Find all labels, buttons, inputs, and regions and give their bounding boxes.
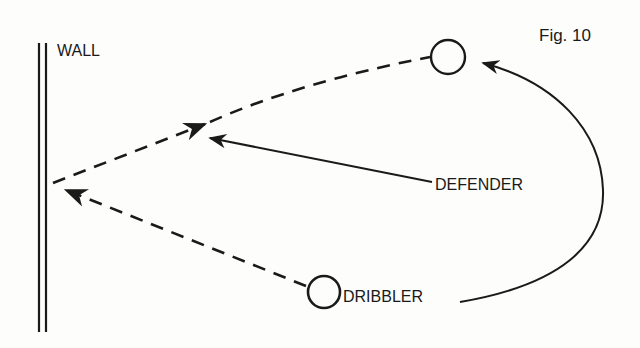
rebound-path — [53, 57, 430, 183]
dribbler-end-position-icon — [431, 40, 465, 74]
dribbler-label: DRIBBLER — [343, 289, 423, 305]
figure-caption: Fig. 10 — [539, 27, 591, 44]
wall-label: WALL — [57, 43, 100, 59]
defender-label: DEFENDER — [435, 177, 523, 193]
defender-arrow — [210, 138, 432, 182]
pass-to-wall-arrow — [66, 190, 306, 286]
figure-canvas: WALL Fig. 10 DEFENDER DRIBBLER — [0, 0, 640, 348]
wall — [39, 43, 46, 332]
dribbler-start-position-icon — [308, 276, 340, 308]
